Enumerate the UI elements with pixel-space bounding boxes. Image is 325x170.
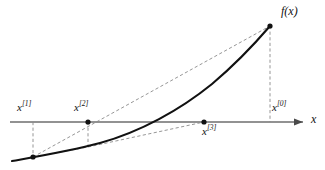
point-x3-on-axis [201, 119, 206, 124]
point-x1-on-curve [30, 154, 35, 159]
function-curve [12, 26, 270, 161]
label-iterate-x0-superscript: [0] [277, 99, 287, 108]
label-iterate-x3: x[3] [202, 126, 216, 137]
point-x2-on-axis [85, 119, 90, 124]
label-iterate-x1: x[1] [17, 102, 31, 113]
point-x0-on-curve [267, 23, 272, 28]
secant-lines-group [33, 26, 270, 157]
secant-line-x1-x0 [33, 26, 270, 157]
secant-method-figure: f(x) x x[1] x[2] x[3] x[0] [0, 0, 325, 170]
x-axis-arrow-icon [294, 118, 303, 125]
label-iterate-x2: x[2] [74, 102, 88, 113]
label-iterate-x2-superscript: [2] [79, 99, 89, 108]
label-iterate-x1-superscript: [1] [22, 99, 32, 108]
label-iterate-x0: x[0] [272, 102, 286, 113]
x-axis-label: x [311, 113, 316, 125]
label-iterate-x3-superscript: [3] [207, 123, 217, 132]
function-label: f(x) [281, 5, 298, 17]
figure-canvas [0, 0, 325, 170]
